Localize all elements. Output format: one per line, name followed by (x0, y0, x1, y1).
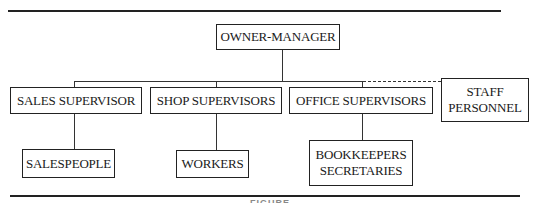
secretaries-label: SECRETARIES (320, 163, 403, 179)
figure-caption: FIGURE (0, 199, 540, 203)
workers-label: WORKERS (181, 156, 243, 172)
staff-personnel-line1: STAFF (467, 84, 504, 100)
sales-supervisor-box: SALES SUPERVISOR (10, 87, 142, 114)
connector-shop-down (216, 114, 217, 150)
bookkeepers-secretaries-box: BOOKKEEPERS SECRETARIES (309, 140, 413, 186)
connector-root-down (282, 50, 283, 81)
staff-dashed-connector (363, 81, 441, 82)
connector-office-down (362, 114, 363, 140)
salespeople-box: SALESPEOPLE (22, 149, 115, 178)
office-supervisors-label: OFFICE SUPERVISORS (296, 93, 426, 109)
connector-level2-bar (74, 81, 363, 82)
bottom-rule (10, 195, 520, 197)
salespeople-label: SALESPEOPLE (26, 156, 111, 172)
shop-supervisors-box: SHOP SUPERVISORS (150, 87, 282, 114)
figure-caption-text: FIGURE (250, 199, 290, 203)
workers-box: WORKERS (176, 150, 249, 178)
owner-manager-box: OWNER-MANAGER (216, 24, 340, 50)
owner-manager-label: OWNER-MANAGER (220, 29, 335, 45)
bookkeepers-label: BOOKKEEPERS (316, 147, 407, 163)
connector-sales-down (74, 114, 75, 149)
shop-supervisors-label: SHOP SUPERVISORS (157, 93, 275, 109)
staff-personnel-line2: PERSONNEL (448, 100, 521, 116)
sales-supervisor-label: SALES SUPERVISOR (17, 93, 135, 109)
top-rule (8, 10, 501, 12)
office-supervisors-box: OFFICE SUPERVISORS (289, 87, 433, 114)
staff-personnel-box: STAFF PERSONNEL (441, 78, 529, 122)
